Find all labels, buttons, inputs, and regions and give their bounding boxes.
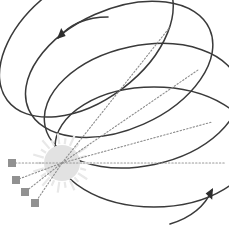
precession-diagram: Apsidal precession of an elliptical orbi… xyxy=(0,0,229,234)
perihelion-1 xyxy=(8,159,16,167)
perihelion-markers xyxy=(8,159,39,207)
sun-ray xyxy=(42,177,49,185)
perihelion-4 xyxy=(31,199,39,207)
sun-ray xyxy=(78,147,87,153)
sun-ray xyxy=(41,149,46,152)
sun-ray xyxy=(65,138,66,144)
sun-ray xyxy=(65,182,66,188)
radial-lines xyxy=(16,27,212,203)
orbit-family xyxy=(0,0,229,207)
sun-ray xyxy=(52,180,54,185)
sun-ray xyxy=(74,177,78,182)
precession-arrow-top-left-path xyxy=(58,17,108,38)
orbit-ellipse-2 xyxy=(4,0,229,164)
sun-ray xyxy=(58,133,60,144)
sun-ray xyxy=(42,140,49,148)
radial-to-aphelion-2 xyxy=(62,70,198,163)
perihelion-3 xyxy=(21,188,29,196)
precession-arrow-bottom-right-path xyxy=(170,190,212,224)
sun-ray xyxy=(78,173,87,179)
sun-ray xyxy=(52,140,54,145)
sun-ray xyxy=(33,155,44,158)
sun-ray xyxy=(58,182,60,193)
precession-figure: Apsidal precession of an elliptical orbi… xyxy=(0,0,229,234)
radial-to-aphelion-3 xyxy=(62,122,212,163)
orbit-ellipse-4 xyxy=(55,87,229,207)
sun-ray xyxy=(80,168,86,170)
precession-arrows xyxy=(54,17,217,224)
perihelion-2 xyxy=(12,176,20,184)
radial-to-aphelion-1 xyxy=(62,27,170,163)
